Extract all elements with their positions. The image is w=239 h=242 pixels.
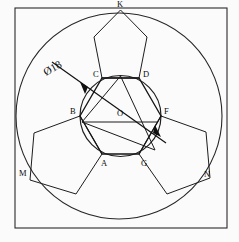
vertex-label-b: B — [70, 106, 76, 116]
vertex-label-n: N — [204, 169, 210, 179]
pentagon-right-n — [139, 116, 210, 194]
geometry-diagram: Ø18 K C D B O F A G M N — [0, 0, 239, 242]
vertex-label-d: D — [143, 69, 149, 79]
vertex-label-k: K — [117, 0, 124, 9]
leader-arrowhead-inner — [80, 82, 88, 94]
vertex-label-g: G — [141, 158, 147, 168]
vertex-label-f: F — [164, 106, 169, 116]
vertex-label-a: A — [101, 158, 108, 168]
diameter-dimension-label: Ø18 — [41, 58, 64, 78]
vertex-label-m: M — [19, 168, 27, 178]
technical-drawing-canvas: Ø18 K C D B O F A G M N — [0, 0, 239, 242]
pentagon-top-k — [94, 10, 147, 78]
vertex-label-c: C — [93, 69, 99, 79]
drawing-frame — [15, 8, 227, 228]
vertex-label-o-center: O — [117, 108, 123, 118]
